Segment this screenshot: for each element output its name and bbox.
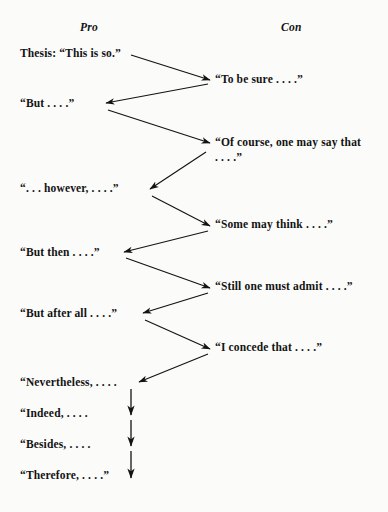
arrow-i-concede-to-nevertheless xyxy=(139,354,208,382)
arrow-to-be-sure-to-but xyxy=(106,84,208,103)
pro-node-indeed: “Indeed, . . . . xyxy=(20,406,88,421)
con-node-still-one-must-admit: “Still one must admit . . . .” xyxy=(215,279,353,294)
arrow-but-to-of-course xyxy=(108,110,210,143)
argument-flow-diagram: Pro Con Thesis: “This is so.” “But . . .… xyxy=(0,0,388,512)
pro-node-nevertheless: “Nevertheless, . . . . xyxy=(20,375,117,390)
pro-node-but-after-all: “But after all . . . .” xyxy=(20,306,117,321)
arrow-but-then-to-still-one-must xyxy=(126,258,210,288)
con-node-i-concede-that: “I concede that . . . .” xyxy=(215,340,322,355)
arrow-however-to-some-may-think xyxy=(152,196,210,226)
zigzag-arrows xyxy=(106,55,210,382)
arrow-of-course-to-however xyxy=(150,152,206,189)
pro-node-therefore: “Therefore, . . . .” xyxy=(20,468,109,483)
pro-node-but: “But . . . .” xyxy=(20,96,74,111)
pro-node-but-then: “But then . . . .” xyxy=(20,245,100,260)
arrow-after-all-to-i-concede xyxy=(145,320,210,349)
con-node-of-course: “Of course, one may say that . . . .” xyxy=(215,135,365,165)
column-header-con: Con xyxy=(281,21,302,33)
arrow-thesis-to-to-be-sure xyxy=(131,55,210,80)
pro-node-besides: “Besides, . . . . xyxy=(20,437,91,452)
con-node-to-be-sure: “To be sure . . . .” xyxy=(215,72,303,87)
column-header-pro: Pro xyxy=(80,21,98,33)
con-node-some-may-think: “Some may think . . . .” xyxy=(215,217,333,232)
pro-node-thesis: Thesis: “This is so.” xyxy=(20,46,121,61)
pro-node-however: “. . . however, . . . .” xyxy=(20,181,119,196)
arrow-still-one-must-to-after-all xyxy=(143,293,208,313)
arrow-some-may-think-to-but-then xyxy=(124,231,208,252)
